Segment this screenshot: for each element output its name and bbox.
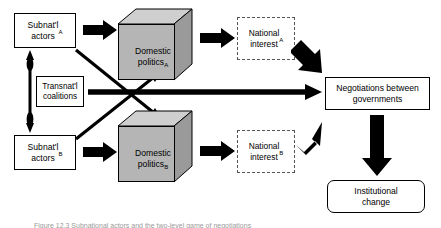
node-subscript: B bbox=[279, 150, 283, 157]
cube-front-face bbox=[118, 126, 175, 182]
arrow-negotiations-to-institutional-change bbox=[362, 115, 392, 176]
node-national-interest-b[interactable]: National interestB bbox=[237, 130, 295, 173]
node-subscript: B bbox=[58, 151, 62, 158]
arrow-national-interest-b-to-negotiations bbox=[296, 122, 322, 155]
node-subnational-actors-a[interactable]: Subnat'l actorsA bbox=[14, 13, 76, 48]
diagram-canvas: Subnat'l actorsA Transnat'l coalitions S… bbox=[0, 0, 441, 228]
node-institutional-change[interactable]: Institutional change bbox=[327, 180, 425, 213]
arrow-domestic-b-to-national-interest-b bbox=[200, 141, 235, 161]
node-label: National interest bbox=[249, 141, 280, 162]
arrow-coalitions-to-negotiations bbox=[88, 84, 322, 100]
node-domestic-politics-b[interactable]: Domestic politicsB bbox=[112, 108, 194, 188]
node-transnational-coalitions[interactable]: Transnat'l coalitions bbox=[36, 76, 84, 107]
arrow-subnat-a-subnat-b-link bbox=[26, 50, 34, 133]
figure-caption: Figure 12.3 Subnational actors and the t… bbox=[34, 221, 364, 228]
node-label: Institutional change bbox=[354, 186, 397, 207]
node-subscript: A bbox=[279, 37, 283, 44]
arrow-national-interest-a-to-negotiations bbox=[291, 40, 322, 73]
node-negotiations[interactable]: Negotiations between governments bbox=[325, 77, 430, 110]
node-subscript: A bbox=[58, 29, 62, 36]
node-label: Subnat'l actors bbox=[28, 20, 59, 41]
node-label: National interest bbox=[249, 28, 280, 49]
node-national-interest-a[interactable]: National interestA bbox=[237, 17, 295, 60]
node-label: Transnat'l coalitions bbox=[42, 82, 77, 102]
node-label: Subnat'l actors bbox=[28, 142, 59, 163]
node-subnational-actors-b[interactable]: Subnat'l actorsB bbox=[14, 135, 76, 170]
node-domestic-politics-a[interactable]: Domestic politicsA bbox=[112, 6, 194, 86]
cube-front-face bbox=[118, 24, 175, 80]
node-label: Negotiations between governments bbox=[336, 83, 419, 104]
arrow-domestic-a-to-national-interest-a bbox=[200, 28, 235, 48]
